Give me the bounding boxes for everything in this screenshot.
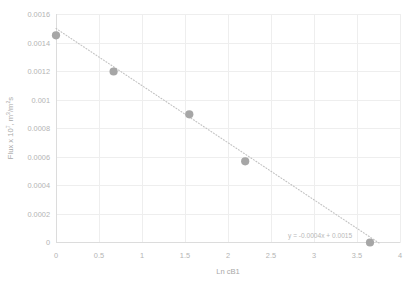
x-axis-title: Ln cB1 — [216, 267, 240, 276]
x-tick-label: 0.5 — [94, 251, 104, 260]
data-point — [241, 157, 249, 165]
y-tick-label: 0.001 — [32, 96, 51, 105]
y-axis-title-units-mid: /m — [6, 104, 15, 112]
data-point — [185, 110, 193, 118]
y-axis-title-units-post: s — [6, 97, 15, 101]
y-axis-title-units-pre: , m — [6, 115, 15, 126]
data-point — [52, 31, 60, 39]
x-tick-label: 1 — [140, 251, 144, 260]
y-tick-label: 0.0006 — [27, 153, 50, 162]
y-tick-label: 0.0016 — [27, 10, 50, 19]
y-tick-label: 0.0014 — [27, 39, 50, 48]
x-tick-label: 0 — [54, 251, 58, 260]
data-point — [366, 238, 374, 246]
trendline-equation-label: y = -0.0004x + 0.0015 — [288, 232, 352, 240]
chart-container: 0.0016 0.0014 0.0012 0.001 0.0008 0.0006… — [0, 0, 409, 281]
y-tick-label: 0.0002 — [27, 210, 50, 219]
y-tick-label: 0.0012 — [27, 67, 50, 76]
scatter-chart: 0.0016 0.0014 0.0012 0.001 0.0008 0.0006… — [0, 0, 409, 281]
y-tick-labels: 0.0016 0.0014 0.0012 0.001 0.0008 0.0006… — [27, 10, 50, 247]
y-axis-title-main: Flux x 10 — [6, 128, 15, 159]
y-tick-label: 0.0004 — [27, 181, 50, 190]
x-tick-label: 1.5 — [180, 251, 190, 260]
x-tick-label: 3 — [312, 251, 316, 260]
x-tick-label: 4 — [398, 251, 402, 260]
data-point — [110, 67, 118, 75]
y-tick-label: 0 — [46, 238, 50, 247]
x-tick-label: 2 — [226, 251, 230, 260]
y-tick-label: 0.0008 — [27, 124, 50, 133]
x-tick-label: 2.5 — [266, 251, 276, 260]
x-tick-label: 3.5 — [352, 251, 362, 260]
